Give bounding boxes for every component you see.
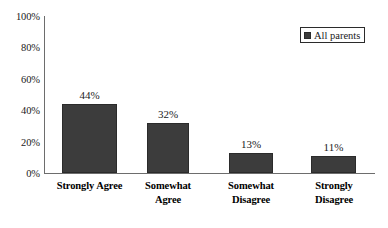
- x-axis-label-line: Somewhat: [212, 179, 290, 193]
- chart-legend: All parents: [300, 27, 365, 43]
- x-axis-line: [44, 173, 375, 174]
- value-label-strongly-agree: 44%: [62, 89, 117, 101]
- bar-somewhat-disagree: [229, 153, 273, 173]
- bar-somewhat-agree: [147, 123, 189, 173]
- x-axis-label-line: Strongly: [296, 179, 372, 193]
- bar-chart: 100% 80% 60% 40% 20% 0% 44% 32% 13% 11% …: [0, 0, 388, 228]
- x-axis-label-line: Somewhat: [132, 179, 204, 193]
- y-axis-tick-label-60: 60%: [4, 74, 44, 85]
- x-axis-label-line: Agree: [132, 193, 204, 207]
- y-axis-tick-label-80: 80%: [4, 42, 44, 53]
- x-axis-label-line: Disagree: [296, 193, 372, 207]
- y-axis-tick-label-100: 100%: [4, 11, 44, 22]
- x-axis-label-line: Strongly Agree: [42, 179, 137, 193]
- bar-strongly-agree: [62, 104, 117, 173]
- bar-strongly-disagree: [311, 156, 356, 173]
- x-axis-label-somewhat-disagree: Somewhat Disagree: [212, 179, 290, 207]
- x-axis-label-somewhat-agree: Somewhat Agree: [132, 179, 204, 207]
- legend-swatch-icon: [304, 32, 311, 39]
- y-axis-line: [44, 16, 45, 173]
- y-axis-tick-label-20: 20%: [4, 137, 44, 148]
- y-axis-tick-label-0: 0%: [4, 168, 44, 179]
- x-axis-label-strongly-disagree: Strongly Disagree: [296, 179, 372, 207]
- legend-entry-label: All parents: [314, 30, 360, 41]
- value-label-somewhat-disagree: 13%: [229, 138, 273, 150]
- value-label-strongly-disagree: 11%: [311, 141, 356, 153]
- value-label-somewhat-agree: 32%: [147, 108, 189, 120]
- x-axis-label-line: Disagree: [212, 193, 290, 207]
- x-axis-label-strongly-agree: Strongly Agree: [42, 179, 137, 193]
- y-axis-tick-label-40: 40%: [4, 105, 44, 116]
